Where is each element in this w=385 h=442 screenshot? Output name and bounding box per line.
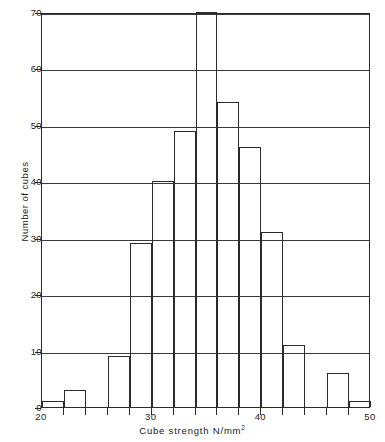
x-tick-label-20: 20	[35, 412, 46, 422]
histogram-bar	[42, 401, 64, 407]
x-tick-44	[304, 408, 305, 415]
histogram-bar	[130, 243, 152, 407]
histogram-bar	[108, 356, 130, 407]
x-tick-28	[129, 408, 130, 415]
y-tick-label-40: 40	[31, 177, 42, 187]
x-axis-title-superscript: 2	[241, 424, 245, 431]
x-tick-38	[238, 408, 239, 415]
histogram-bar	[152, 181, 174, 407]
y-tick-label-70: 70	[31, 8, 42, 18]
x-axis-title: Cube strength N/mm2	[0, 424, 385, 436]
y-tick-label-20: 20	[31, 290, 42, 300]
histogram-bar	[261, 232, 283, 407]
y-tick-label-60: 60	[31, 64, 42, 74]
y-axis-title: Number of cubes	[19, 142, 30, 262]
histogram-bar	[283, 345, 305, 407]
x-tick-48	[348, 408, 349, 415]
histogram-bar	[349, 401, 371, 407]
x-tick-label-50: 50	[364, 412, 375, 422]
x-tick-42	[282, 408, 283, 415]
x-tick-34	[195, 408, 196, 415]
x-axis-title-text: Cube strength N/mm	[139, 425, 241, 436]
x-tick-label-30: 30	[145, 412, 156, 422]
histogram-bar	[174, 131, 196, 408]
histogram-bar	[327, 373, 349, 407]
histogram-bar	[239, 147, 261, 407]
histogram-bar	[64, 390, 86, 407]
x-tick-label-40: 40	[255, 412, 266, 422]
y-tick-label-10: 10	[31, 347, 42, 357]
histogram-bar	[196, 12, 218, 407]
x-tick-22	[63, 408, 64, 415]
x-tick-46	[326, 408, 327, 415]
x-tick-24	[85, 408, 86, 415]
histogram-figure: 010203040506070 20304050 Number of cubes…	[0, 0, 385, 442]
x-tick-36	[216, 408, 217, 415]
y-tick-label-30: 30	[31, 234, 42, 244]
histogram-bar	[217, 102, 239, 407]
x-tick-26	[107, 408, 108, 415]
plot-area	[41, 13, 370, 408]
y-tick-label-50: 50	[31, 121, 42, 131]
x-tick-32	[173, 408, 174, 415]
